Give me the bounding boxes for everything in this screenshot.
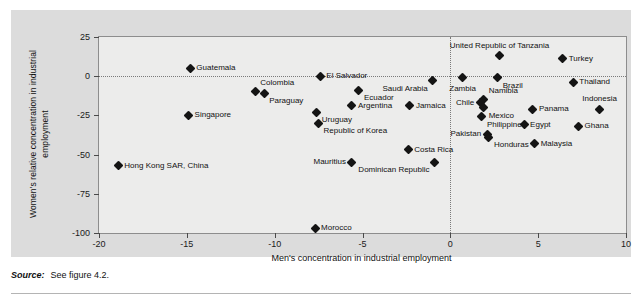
data-point-label: Saudi Arabia bbox=[382, 84, 427, 93]
data-point-label: Panama bbox=[539, 104, 569, 113]
x-axis-tick-mark bbox=[450, 233, 451, 238]
data-point-label: Mexico bbox=[489, 111, 514, 120]
diamond-marker-icon bbox=[495, 51, 505, 61]
diamond-marker-icon bbox=[458, 73, 468, 83]
data-point-label: Uruguay bbox=[322, 115, 352, 124]
data-point-label: Colombia bbox=[260, 78, 294, 87]
data-point-label: Pakistan bbox=[451, 129, 482, 138]
source-note: Source:See figure 4.2. bbox=[11, 270, 109, 280]
x-axis-title: Men's concentration in industrial employ… bbox=[98, 253, 625, 263]
figure-container: 250-25-50-75-100-20-15-10-50510Guatemala… bbox=[0, 0, 642, 305]
footer-divider bbox=[11, 293, 631, 294]
diamond-marker-icon bbox=[574, 121, 584, 131]
diamond-marker-icon bbox=[428, 76, 438, 86]
diamond-marker-icon bbox=[184, 110, 194, 120]
data-point-label: Singapore bbox=[195, 110, 231, 119]
diamond-marker-icon bbox=[185, 63, 195, 73]
y-axis-tick-mark bbox=[94, 115, 99, 116]
x-axis-tick-mark bbox=[626, 233, 627, 238]
x-axis-tick-mark bbox=[538, 233, 539, 238]
data-point-label: Turkey bbox=[569, 54, 593, 63]
x-axis-tick-mark bbox=[275, 233, 276, 238]
y-axis-title: Women's relative concentration in indust… bbox=[27, 36, 55, 232]
diamond-marker-icon bbox=[430, 157, 440, 167]
diamond-marker-icon bbox=[403, 145, 413, 155]
y-axis-tick-mark bbox=[94, 194, 99, 195]
data-point-label: Chile bbox=[456, 98, 474, 107]
diamond-marker-icon bbox=[528, 104, 538, 114]
x-axis-tick-label: 5 bbox=[536, 239, 541, 249]
y-axis-tick-mark bbox=[94, 155, 99, 156]
diamond-marker-icon bbox=[347, 101, 357, 111]
y-axis-tick-mark bbox=[94, 76, 99, 77]
data-point-label: Republic of Korea bbox=[324, 126, 388, 135]
x-axis-tick-label: -20 bbox=[92, 239, 105, 249]
diamond-marker-icon bbox=[568, 78, 578, 88]
source-text: See figure 4.2. bbox=[51, 270, 110, 280]
data-point-label: Jamaica bbox=[416, 101, 446, 110]
data-point-label: Ghana bbox=[585, 121, 609, 130]
diamond-marker-icon bbox=[312, 107, 322, 117]
data-point-label: Dominican Republic bbox=[358, 165, 429, 174]
plot-area: 250-25-50-75-100-20-15-10-50510Guatemala… bbox=[98, 36, 627, 234]
diamond-marker-icon bbox=[315, 71, 325, 81]
diamond-marker-icon bbox=[530, 139, 540, 149]
x-axis-tick-mark bbox=[99, 233, 100, 238]
x-axis-tick-label: -15 bbox=[180, 239, 193, 249]
diamond-marker-icon bbox=[405, 101, 415, 111]
data-point-label: Paraguay bbox=[269, 96, 303, 105]
y-axis-tick-mark bbox=[94, 37, 99, 38]
data-point-label: Argentina bbox=[358, 101, 392, 110]
data-point-label: Hong Kong SAR, China bbox=[124, 161, 208, 170]
x-axis-tick-mark bbox=[187, 233, 188, 238]
data-point-label: Zambia bbox=[449, 84, 476, 93]
data-point-label: Thailand bbox=[579, 77, 610, 86]
chart-panel: 250-25-50-75-100-20-15-10-50510Guatemala… bbox=[11, 10, 631, 257]
data-point-label: Morocco bbox=[321, 223, 352, 232]
diamond-marker-icon bbox=[250, 87, 260, 97]
diamond-marker-icon bbox=[347, 157, 357, 167]
data-point-label: Costa Rica bbox=[414, 145, 453, 154]
diamond-marker-icon bbox=[477, 112, 487, 122]
x-axis-tick-label: -5 bbox=[358, 239, 366, 249]
diamond-marker-icon bbox=[113, 161, 123, 171]
data-point-label: Indonesia bbox=[582, 94, 617, 103]
data-point-label: Malaysia bbox=[541, 139, 573, 148]
data-point-label: Egypt bbox=[530, 120, 550, 129]
x-axis-tick-label: 10 bbox=[621, 239, 631, 249]
diamond-marker-icon bbox=[493, 73, 503, 83]
x-axis-tick-mark bbox=[363, 233, 364, 238]
data-point-label: Namibia bbox=[489, 86, 518, 95]
data-point-label: Honduras bbox=[494, 140, 529, 149]
data-point-label: Guatemala bbox=[196, 63, 235, 72]
diamond-marker-icon bbox=[310, 223, 320, 233]
x-axis-tick-label: -10 bbox=[268, 239, 281, 249]
diamond-marker-icon bbox=[354, 85, 364, 95]
diamond-marker-icon bbox=[595, 104, 605, 114]
diamond-marker-icon bbox=[259, 88, 269, 98]
data-point-label: United Republic of Tanzania bbox=[450, 41, 549, 50]
x-axis-tick-label: 0 bbox=[448, 239, 453, 249]
diamond-marker-icon bbox=[558, 54, 568, 64]
source-label: Source: bbox=[11, 270, 45, 280]
data-point-label: Mauritius bbox=[314, 157, 346, 166]
data-point-label: El Salvador bbox=[326, 71, 367, 80]
